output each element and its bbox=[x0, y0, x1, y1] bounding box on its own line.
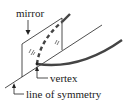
parabola-curve bbox=[37, 40, 122, 65]
vertex-arrow-icon bbox=[35, 66, 48, 78]
diagram-svg: mirror vertex line of symmetry bbox=[0, 0, 128, 110]
symmetry-label: line of symmetry bbox=[26, 88, 102, 100]
mirror-arrow-icon bbox=[26, 20, 31, 35]
mirror-label: mirror bbox=[16, 7, 44, 19]
vertex-point bbox=[36, 63, 39, 66]
parabola-mirror-diagram: mirror vertex line of symmetry bbox=[0, 0, 128, 110]
symmetry-arrow-icon bbox=[12, 83, 24, 94]
curve-top-segment bbox=[62, 14, 70, 22]
vertex-label: vertex bbox=[50, 72, 78, 84]
